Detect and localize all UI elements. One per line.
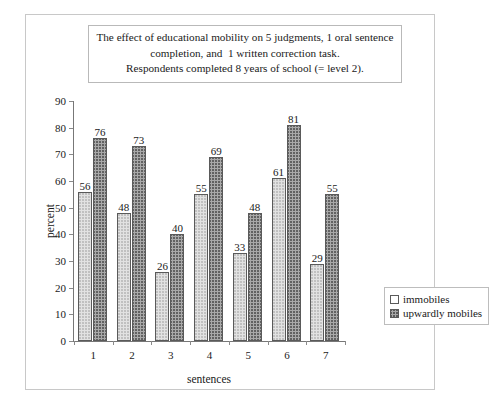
bar-value-label: 29 [312,252,323,264]
bar-value-label: 48 [118,201,129,213]
y-tick-mark [69,261,73,262]
bar-upwardly-mobiles-5: 48 [248,213,262,341]
y-tick-mark [69,288,73,289]
chart-title-line-3: Respondents completed 8 years of school … [95,61,395,77]
bar-group: 5569 [190,101,229,341]
y-tick-mark [69,128,73,129]
chart-title-line-1: The effect of educational mobility on 5 … [95,30,395,46]
bar-upwardly-mobiles-6: 81 [287,125,301,341]
y-tick-mark [69,314,73,315]
chart-legend: immobiles upwardly mobiles [384,287,489,325]
bar-group: 2955 [306,101,345,341]
bar-value-label: 55 [196,182,207,194]
legend-label-immobiles: immobiles [403,292,449,306]
x-tick-mark [268,341,269,345]
plot-area: percent 0102030405060708090 567648732640… [73,101,411,341]
figure-frame: The effect of educational mobility on 5 … [25,14,435,390]
bar-immobiles-7: 29 [310,264,324,341]
bar-upwardly-mobiles-3: 40 [170,234,184,341]
bar-immobiles-6: 61 [272,178,286,341]
bar-group: 5676 [74,101,113,341]
x-tick-label: 4 [207,349,213,361]
bar-value-label: 56 [80,180,91,192]
bar-value-label: 33 [234,241,245,253]
y-tick-mark [69,208,73,209]
y-tick-mark [69,181,73,182]
x-tick-label: 7 [323,349,329,361]
bar-value-label: 69 [211,145,222,157]
y-tick-mark [69,154,73,155]
bar-immobiles-2: 48 [117,213,131,341]
bars-layer: 5676487326405569334861812955 [74,101,345,341]
bar-value-label: 61 [273,166,284,178]
bar-value-label: 55 [327,182,338,194]
x-tick-label: 5 [245,349,251,361]
x-tick-mark [345,341,346,345]
chart-title-box: The effect of educational mobility on 5 … [88,25,402,83]
x-tick-mark [229,341,230,345]
bar-value-label: 81 [288,113,299,125]
bar-group: 2640 [151,101,190,341]
y-tick-mark [69,234,73,235]
bar-upwardly-mobiles-2: 73 [132,146,146,341]
x-tick-label: 6 [284,349,290,361]
chart-title-line-2: completion, and 1 written correction tas… [95,46,395,62]
bar-group: 4873 [113,101,152,341]
bar-immobiles-5: 33 [233,253,247,341]
bar-upwardly-mobiles-7: 55 [325,194,339,341]
x-tick-label: 3 [168,349,174,361]
bar-value-label: 40 [172,222,183,234]
x-tick-label: 2 [129,349,135,361]
bar-group: 3348 [229,101,268,341]
bar-value-label: 73 [133,134,144,146]
bar-upwardly-mobiles-4: 69 [209,157,223,341]
y-tick-mark [69,341,73,342]
legend-swatch-icon-immobiles [390,295,399,304]
bar-group: 6181 [268,101,307,341]
legend-item-immobiles: immobiles [390,292,482,306]
bar-immobiles-3: 26 [155,272,169,341]
bar-value-label: 48 [249,201,260,213]
x-axis-line [73,341,345,342]
x-tick-mark [113,341,114,345]
legend-item-upwardly-mobiles: upwardly mobiles [390,306,482,320]
legend-label-upwardly-mobiles: upwardly mobiles [403,306,482,320]
x-tick-mark [190,341,191,345]
bar-immobiles-1: 56 [78,192,92,341]
x-tick-label: 1 [91,349,97,361]
bar-value-label: 76 [95,126,106,138]
bar-value-label: 26 [157,260,168,272]
x-tick-mark [74,341,75,345]
y-tick-mark [69,101,73,102]
bar-immobiles-4: 55 [194,194,208,341]
legend-swatch-icon-upwardly-mobiles [390,309,399,318]
x-tick-mark [151,341,152,345]
bar-upwardly-mobiles-1: 76 [93,138,107,341]
x-tick-mark [306,341,307,345]
x-axis-title: sentences [187,373,231,385]
